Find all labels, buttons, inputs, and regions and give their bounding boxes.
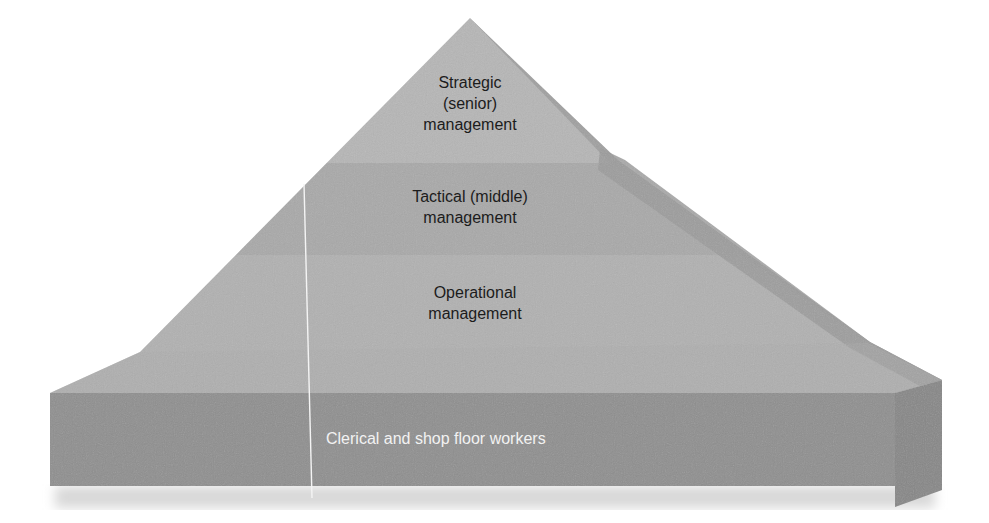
label-strategic-line3: management bbox=[410, 114, 530, 135]
label-operational-line1: Operational bbox=[400, 282, 550, 303]
label-strategic-line2: (senior) bbox=[410, 93, 530, 114]
label-strategic-line1: Strategic bbox=[410, 72, 530, 93]
label-operational-line2: management bbox=[400, 303, 550, 324]
management-pyramid-diagram: Strategic (senior) management Tactical (… bbox=[0, 0, 989, 523]
label-tactical-line2: management bbox=[375, 207, 565, 228]
base-side-face bbox=[895, 380, 942, 507]
label-workers-text: Clerical and shop floor workers bbox=[326, 430, 546, 447]
label-workers: Clerical and shop floor workers bbox=[326, 428, 546, 449]
label-tactical: Tactical (middle) management bbox=[375, 186, 565, 228]
label-operational: Operational management bbox=[400, 282, 550, 324]
label-tactical-line1: Tactical (middle) bbox=[375, 186, 565, 207]
label-strategic: Strategic (senior) management bbox=[410, 72, 530, 135]
